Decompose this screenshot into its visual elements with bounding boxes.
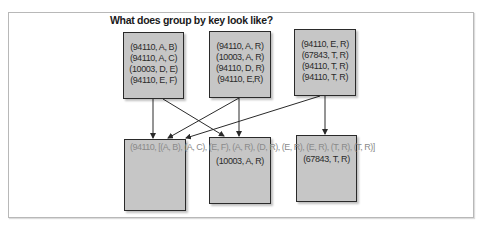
- record: (10003, A, R): [210, 156, 270, 166]
- record: (10003, A, R): [210, 52, 270, 63]
- record: (94110, T, R): [295, 61, 355, 72]
- input-partition-1: (94110, A, B) (94110, A, C) (10003, D, E…: [123, 32, 184, 99]
- record: (94110, A, R): [210, 41, 270, 52]
- arrow-p1-to-o2: [163, 99, 224, 136]
- record: (94110, E,R): [210, 74, 270, 85]
- record: (94110, A, B): [124, 42, 183, 53]
- record: (94110, T, R): [295, 72, 355, 83]
- record: (94110, E, R): [295, 39, 355, 50]
- record: (94110, E, F): [124, 75, 183, 86]
- record: (67843, T, R): [295, 50, 355, 61]
- input-partition-2: (94110, A, R) (10003, A, R) (94110, D, R…: [209, 31, 271, 98]
- grouped-values-overlay: (94110, [(A, B), (A, C), (E, F), (A, R),…: [130, 142, 375, 152]
- record: (94110, A, C): [124, 53, 183, 64]
- record: (10003, D, E): [124, 64, 183, 75]
- input-partition-3: (94110, E, R) (67843, T, R) (94110, T, R…: [294, 29, 356, 96]
- record: (67843, T, R): [297, 154, 356, 164]
- record: (94110, D, R): [210, 63, 270, 74]
